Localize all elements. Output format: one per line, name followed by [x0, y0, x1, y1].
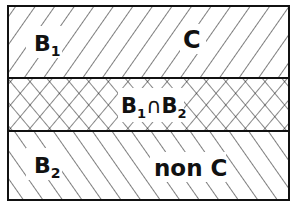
label-non-c: non C: [154, 155, 227, 181]
set-diagram: B1 C B1∩B2 B2 non C: [0, 0, 295, 207]
label-intersection: B1∩B2: [121, 94, 187, 121]
label-c: C: [183, 26, 201, 54]
